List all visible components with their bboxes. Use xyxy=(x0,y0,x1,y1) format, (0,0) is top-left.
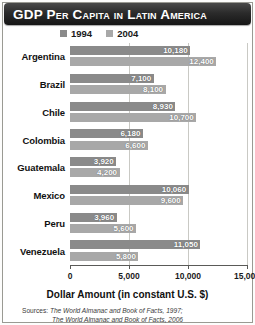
legend-item-1994: 1994 xyxy=(60,28,92,39)
bar-value-label: 10,180 xyxy=(163,46,190,55)
x-axis-line xyxy=(70,265,247,266)
category-label-peru: Peru xyxy=(8,218,70,229)
bar-value-label: 12,400 xyxy=(189,57,216,66)
bar-1994-chile: 8,930 xyxy=(70,102,175,111)
bar-1994-brazil: 7,100 xyxy=(70,74,154,83)
bar-2004-venezuela: 5,800 xyxy=(70,252,138,261)
bar-value-label: 10,700 xyxy=(169,113,196,122)
x-axis-tick xyxy=(188,265,189,269)
bar-row: Mexico10,0609,600 xyxy=(8,182,247,210)
legend-label-1994: 1994 xyxy=(71,28,92,39)
chart-legend: 1994 2004 xyxy=(60,28,138,39)
bar-value-label: 4,200 xyxy=(97,168,120,177)
x-axis-tick xyxy=(70,265,71,269)
bar-group: 10,18012,400 xyxy=(70,43,247,71)
category-label-colombia: Colombia xyxy=(8,135,70,146)
bar-value-label: 9,600 xyxy=(161,196,184,205)
bar-value-label: 6,180 xyxy=(120,129,143,138)
bar-1994-guatemala: 3,920 xyxy=(70,157,116,166)
bar-1994-colombia: 6,180 xyxy=(70,129,143,138)
bar-group: 7,1008,100 xyxy=(70,71,247,99)
sources-line-1: The World Almanac and Book of Facts, 199… xyxy=(50,307,183,314)
bar-row: Colombia6,1806,600 xyxy=(8,126,247,154)
category-label-brazil: Brazil xyxy=(8,79,70,90)
bar-rows: Argentina10,18012,400Brazil7,1008,100Chi… xyxy=(8,43,247,265)
bar-value-label: 3,960 xyxy=(94,213,117,222)
bar-group: 8,93010,700 xyxy=(70,99,247,127)
bar-value-label: 8,930 xyxy=(153,102,176,111)
bar-row: Argentina10,18012,400 xyxy=(8,43,247,71)
bar-2004-colombia: 6,600 xyxy=(70,141,148,150)
bar-row: Chile8,93010,700 xyxy=(8,99,247,127)
x-axis-tick-label: 10,000 xyxy=(175,271,201,281)
sources-note: Sources: The World Almanac and Book of F… xyxy=(22,307,183,325)
bar-row: Guatemala3,9204,200 xyxy=(8,154,247,182)
x-axis-tick-label: 0 xyxy=(68,271,73,281)
category-label-mexico: Mexico xyxy=(8,190,70,201)
bar-value-label: 11,050 xyxy=(174,240,201,249)
bar-value-label: 6,600 xyxy=(125,141,148,150)
page-title: GDP Per Capita in Latin America xyxy=(4,7,207,22)
bar-2004-guatemala: 4,200 xyxy=(70,168,120,177)
x-axis-tick-label: 5,000 xyxy=(118,271,139,281)
bar-group: 6,1806,600 xyxy=(70,126,247,154)
category-label-guatemala: Guatemala xyxy=(8,162,70,173)
gdp-chart-figure: GDP Per Capita in Latin America 1994 200… xyxy=(0,0,255,325)
bar-value-label: 5,800 xyxy=(116,252,139,261)
bar-row: Brazil7,1008,100 xyxy=(8,71,247,99)
bar-group: 3,9605,600 xyxy=(70,210,247,238)
plot-area: Argentina10,18012,400Brazil7,1008,100Chi… xyxy=(8,43,247,271)
bar-value-label: 3,920 xyxy=(94,157,117,166)
bar-2004-mexico: 9,600 xyxy=(70,196,183,205)
legend-item-2004: 2004 xyxy=(106,28,138,39)
bar-2004-chile: 10,700 xyxy=(70,113,196,122)
bar-row: Venezuela11,0505,800 xyxy=(8,237,247,265)
bar-1994-mexico: 10,060 xyxy=(70,185,189,194)
x-axis-tick xyxy=(129,265,130,269)
bar-2004-peru: 5,600 xyxy=(70,224,136,233)
chart-title-banner: GDP Per Capita in Latin America xyxy=(4,3,251,25)
category-label-chile: Chile xyxy=(8,107,70,118)
bar-2004-brazil: 8,100 xyxy=(70,85,166,94)
bar-value-label: 5,600 xyxy=(114,224,137,233)
bar-group: 10,0609,600 xyxy=(70,182,247,210)
x-axis-tick-label: 15,000 xyxy=(234,271,255,281)
legend-label-2004: 2004 xyxy=(117,28,138,39)
bar-1994-argentina: 10,180 xyxy=(70,46,190,55)
legend-swatch-1994 xyxy=(60,30,67,37)
bar-row: Peru3,9605,600 xyxy=(8,210,247,238)
category-label-venezuela: Venezuela xyxy=(8,246,70,257)
bar-group: 11,0505,800 xyxy=(70,237,247,265)
legend-swatch-2004 xyxy=(106,30,113,37)
bar-value-label: 7,100 xyxy=(131,74,154,83)
bar-1994-peru: 3,960 xyxy=(70,213,117,222)
bar-2004-argentina: 12,400 xyxy=(70,57,216,66)
bar-value-label: 8,100 xyxy=(143,85,166,94)
bar-group: 3,9204,200 xyxy=(70,154,247,182)
category-label-argentina: Argentina xyxy=(8,51,70,62)
x-axis-tick xyxy=(247,265,248,269)
x-axis-title: Dollar Amount (in constant U.S. $) xyxy=(0,289,255,300)
bar-value-label: 10,060 xyxy=(162,185,189,194)
bar-1994-venezuela: 11,050 xyxy=(70,240,200,249)
sources-line-2: The World Almanac and Book of Facts, 200… xyxy=(22,316,183,325)
sources-prefix: Sources: xyxy=(22,307,48,314)
